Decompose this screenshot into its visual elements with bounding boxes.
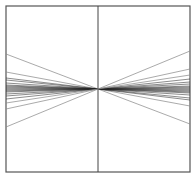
pencil-of-lines-diagram — [0, 0, 195, 182]
